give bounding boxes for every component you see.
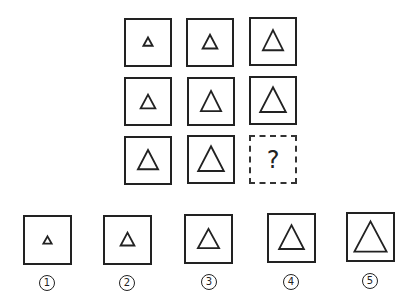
triangle-icon bbox=[105, 217, 150, 263]
option-1-label: 1 bbox=[39, 275, 55, 291]
option-1[interactable] bbox=[23, 215, 72, 265]
triangle-icon bbox=[189, 137, 233, 182]
triangle-icon bbox=[126, 79, 170, 124]
triangle-icon bbox=[251, 78, 295, 123]
grid-cell-r3c2 bbox=[187, 135, 235, 184]
option-5-label: 5 bbox=[362, 273, 378, 289]
grid-cell-r1c2 bbox=[186, 18, 234, 67]
option-2[interactable] bbox=[103, 215, 152, 265]
grid-cell-r1c3 bbox=[249, 17, 297, 66]
grid-cell-r3c1 bbox=[124, 136, 172, 185]
option-4-label: 4 bbox=[283, 274, 299, 290]
triangle-icon bbox=[188, 20, 232, 65]
triangle-icon bbox=[348, 214, 393, 260]
option-3[interactable] bbox=[184, 214, 233, 264]
triangle-icon bbox=[189, 79, 233, 124]
grid-cell-r2c2 bbox=[187, 77, 235, 126]
option-4[interactable] bbox=[267, 213, 316, 263]
option-5[interactable] bbox=[346, 212, 395, 262]
grid-cell-r2c1 bbox=[124, 77, 172, 126]
triangle-icon bbox=[25, 217, 70, 263]
triangle-icon bbox=[251, 19, 295, 64]
missing-cell: ? bbox=[249, 135, 297, 184]
question-mark: ? bbox=[251, 137, 295, 182]
option-3-label: 3 bbox=[201, 274, 217, 290]
triangle-icon bbox=[126, 138, 170, 183]
triangle-icon bbox=[186, 216, 231, 262]
grid-cell-r2c3 bbox=[249, 76, 297, 125]
triangle-icon bbox=[269, 215, 314, 261]
option-2-label: 2 bbox=[119, 275, 135, 291]
grid-cell-r1c1 bbox=[124, 18, 172, 67]
triangle-icon bbox=[126, 20, 170, 65]
